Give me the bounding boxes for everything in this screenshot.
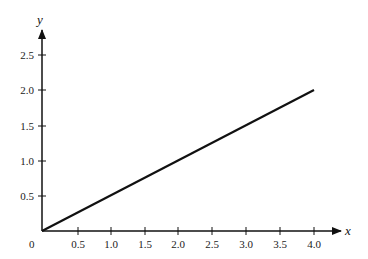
y-tick-label: 2.5 — [20, 49, 34, 61]
x-axis-label: x — [344, 223, 351, 238]
chart: x y 0 0.5 1.0 1.5 2.0 2.5 3.0 3.5 4.0 0.… — [0, 0, 368, 259]
x-tick-label: 1.5 — [138, 238, 152, 250]
y-tick-labels: 0.5 1.0 1.5 2.0 2.5 — [20, 49, 34, 202]
data-line — [42, 90, 314, 231]
x-tick-labels: 0.5 1.0 1.5 2.0 2.5 3.0 3.5 4.0 — [71, 238, 321, 250]
y-tick-label: 1.5 — [20, 120, 34, 132]
x-tick-label: 3.5 — [273, 238, 287, 250]
y-tick-label: 0.5 — [20, 190, 34, 202]
x-tick-label: 0.5 — [71, 238, 85, 250]
x-tick-label: 4.0 — [307, 238, 321, 250]
y-tick-label: 1.0 — [20, 155, 34, 167]
x-tick-label: 2.5 — [205, 238, 219, 250]
y-tick-label: 2.0 — [20, 84, 34, 96]
y-axis-label: y — [35, 12, 43, 27]
x-tick-label: 2.0 — [171, 238, 185, 250]
origin-label: 0 — [29, 238, 35, 250]
x-tick-label: 1.0 — [104, 238, 118, 250]
x-tick-label: 3.0 — [239, 238, 253, 250]
